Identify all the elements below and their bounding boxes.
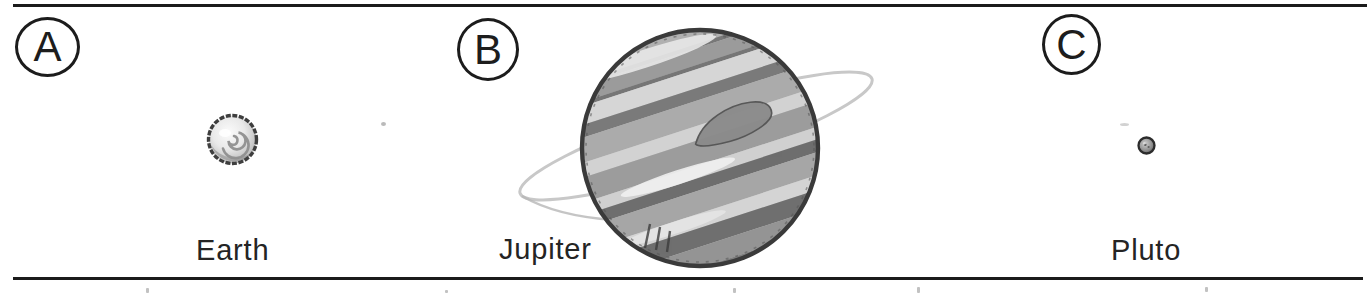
pluto-crater-2 — [1148, 146, 1150, 148]
scan-speck — [1120, 123, 1129, 126]
scan-speck — [381, 122, 386, 126]
cutoff-text-mark — [1205, 287, 1208, 292]
letter-c-text: C — [1056, 24, 1086, 66]
panel-pluto: C Pluto — [0, 0, 1367, 293]
pluto-sphere — [1139, 138, 1155, 154]
circled-letter-c: C — [1042, 14, 1101, 75]
cutoff-text-mark — [733, 288, 736, 293]
cutoff-text-mark — [917, 287, 920, 293]
pluto-highlight — [1143, 142, 1146, 145]
pluto-illustration — [1136, 135, 1157, 156]
cutoff-text-mark — [146, 288, 149, 293]
pluto-label: Pluto — [1111, 234, 1181, 267]
worksheet-figure: A Earth B — [0, 0, 1367, 293]
